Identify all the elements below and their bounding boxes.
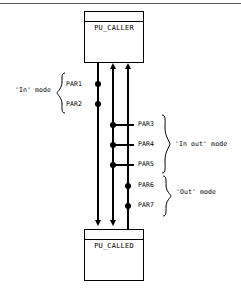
mode-label-inout: 'In out' mode [175, 140, 227, 148]
diagram-canvas: PU_CALLER PU_CALLED PAR1 PAR2 'In' mode … [0, 0, 241, 293]
brace-in-mode [56, 72, 66, 114]
param-dot-par6 [125, 183, 131, 189]
page-top-rule [0, 3, 241, 4]
param-dot-par1 [95, 81, 101, 87]
box-header-strip [85, 230, 143, 240]
brace-out-mode [162, 175, 172, 217]
param-label-par1: PAR1 [66, 80, 82, 88]
box-pu-called: PU_CALLED [84, 229, 144, 281]
param-dot-par2 [95, 101, 101, 107]
param-label-par6: PAR6 [138, 181, 154, 189]
param-label-par2: PAR2 [66, 100, 82, 108]
param-tick-par3 [113, 124, 134, 125]
param-label-par5: PAR5 [138, 160, 154, 168]
box-pu-called-label: PU_CALLED [85, 242, 143, 250]
param-tick-par5 [113, 164, 134, 165]
param-label-par3: PAR3 [138, 120, 154, 128]
arrow-up-inout [110, 63, 116, 69]
param-label-par4: PAR4 [138, 140, 154, 148]
param-label-par7: PAR7 [138, 201, 154, 209]
arrow-up-out [125, 63, 131, 69]
box-pu-caller: PU_CALLER [84, 11, 144, 63]
brace-inout-mode [160, 114, 171, 174]
mode-label-in: 'In' mode [15, 86, 51, 94]
arrow-down-inout [110, 220, 116, 226]
param-dot-par7 [125, 203, 131, 209]
mode-label-out: 'Out' mode [176, 188, 216, 196]
box-pu-caller-label: PU_CALLER [85, 24, 143, 32]
param-tick-par4 [113, 144, 134, 145]
arrow-down-in [95, 220, 101, 226]
box-header-strip [85, 12, 143, 22]
